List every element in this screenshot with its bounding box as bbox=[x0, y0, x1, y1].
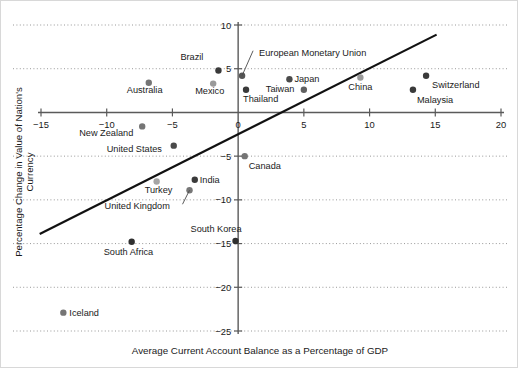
chart-frame: −15−10−505101520105−5−10−15−20−25 Percen… bbox=[0, 0, 518, 368]
data-point[interactable] bbox=[243, 86, 249, 92]
data-point[interactable] bbox=[301, 86, 307, 92]
point-label: European Monetary Union bbox=[259, 49, 366, 58]
data-point[interactable] bbox=[171, 142, 177, 148]
point-label: Japan bbox=[294, 75, 319, 84]
point-label: United Kingdom bbox=[105, 202, 170, 211]
point-label: Malaysia bbox=[417, 96, 453, 105]
x-tick-label: 0 bbox=[236, 119, 241, 130]
point-label: Brazil bbox=[180, 53, 203, 62]
y-tick-label: −20 bbox=[215, 282, 231, 293]
point-label: South Korea bbox=[191, 225, 242, 234]
data-point[interactable] bbox=[153, 178, 159, 184]
point-label: China bbox=[348, 83, 372, 92]
point-label: Canada bbox=[249, 162, 281, 171]
label-leader-line bbox=[242, 51, 253, 76]
x-tick-label: −5 bbox=[167, 119, 178, 130]
y-axis-label: Percentage Change in Value of Nation's C… bbox=[13, 77, 35, 267]
data-point[interactable] bbox=[410, 86, 416, 92]
x-tick-label: −15 bbox=[33, 119, 49, 130]
data-point[interactable] bbox=[242, 153, 248, 159]
x-axis-label: Average Current Account Balance as a Per… bbox=[1, 345, 518, 356]
point-label: Mexico bbox=[195, 87, 224, 96]
data-point[interactable] bbox=[128, 239, 134, 245]
point-label: Australia bbox=[127, 86, 163, 95]
y-tick-label: 5 bbox=[226, 63, 231, 74]
data-point[interactable] bbox=[192, 177, 198, 183]
x-tick-label: 15 bbox=[430, 119, 440, 130]
x-tick-label: 5 bbox=[301, 119, 306, 130]
point-label: India bbox=[200, 176, 220, 185]
point-label: Iceland bbox=[69, 309, 99, 318]
point-label: Turkey bbox=[145, 186, 173, 195]
data-point[interactable] bbox=[357, 74, 363, 80]
point-label: United States bbox=[107, 145, 162, 154]
point-label: South Africa bbox=[104, 248, 154, 257]
y-tick-label: 10 bbox=[221, 20, 231, 31]
point-label: Taiwan bbox=[266, 85, 295, 94]
x-tick-label: 10 bbox=[364, 119, 374, 130]
data-point[interactable] bbox=[60, 309, 66, 315]
y-tick-label: −25 bbox=[215, 326, 231, 337]
data-point[interactable] bbox=[423, 73, 429, 79]
point-label: Thailand bbox=[243, 95, 278, 104]
y-tick-label: −15 bbox=[215, 238, 231, 249]
data-point[interactable] bbox=[232, 238, 238, 244]
label-leader-line bbox=[183, 190, 190, 204]
data-point[interactable] bbox=[139, 123, 145, 129]
point-label: Switzerland bbox=[432, 81, 480, 90]
data-point[interactable] bbox=[215, 67, 221, 73]
y-tick-label: −5 bbox=[220, 151, 231, 162]
x-tick-label: 20 bbox=[496, 119, 506, 130]
y-tick-label: −10 bbox=[215, 194, 231, 205]
data-point[interactable] bbox=[286, 76, 292, 82]
point-label: New Zealand bbox=[79, 129, 133, 138]
